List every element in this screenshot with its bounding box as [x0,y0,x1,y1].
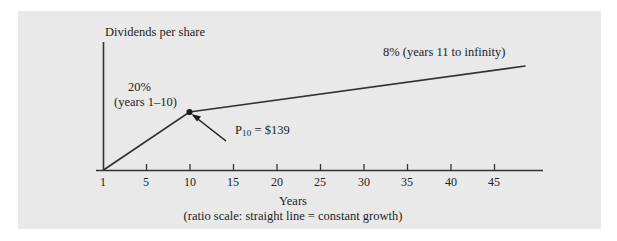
x-axis-ticks [147,164,495,170]
chart-plot-area [0,0,617,241]
price-annotation-arrow [192,114,227,141]
scale-note-caption: (ratio scale: straight line = constant g… [184,209,403,224]
x-tick-label: 20 [271,175,283,190]
constant-growth-label: 8% (years 11 to infinity) [383,45,505,60]
chart-figure: Dividends per share 20% (years 1–10) 8% … [0,0,617,241]
high-growth-years-label: (years 1–10) [114,95,177,110]
dividend-growth-line [104,66,526,170]
x-tick-label: 15 [227,175,239,190]
x-tick-label: 25 [314,175,326,190]
x-axis-title: Years [279,194,307,209]
price-symbol: P [235,123,242,137]
y-axis-title: Dividends per share [105,25,205,40]
high-growth-rate-label: 20% [128,80,151,95]
x-tick-label: 35 [401,175,413,190]
price-value: = $139 [251,123,289,137]
x-tick-label: 40 [445,175,457,190]
x-tick-label: 5 [143,175,149,190]
price-subscript: 10 [242,128,251,138]
price-annotation-label: P10 = $139 [235,123,290,139]
x-tick-label: 45 [488,175,500,190]
x-tick-label: 1 [100,175,106,190]
x-tick-label: 30 [358,175,370,190]
x-tick-label: 10 [184,175,196,190]
